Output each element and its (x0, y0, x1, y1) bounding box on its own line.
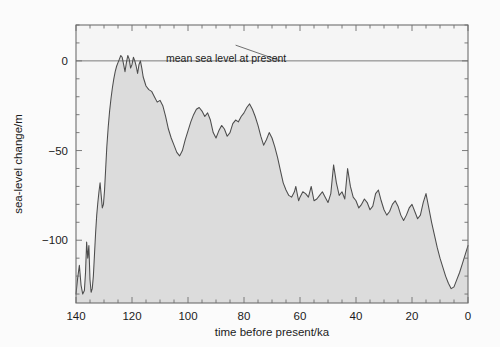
x-tick-label-80: 80 (238, 310, 251, 322)
x-tick-label-100: 100 (178, 310, 197, 322)
sea-level-chart: 140120100806040200 0−50−100 time before … (0, 0, 500, 347)
y-tick-label--50: −50 (48, 145, 68, 157)
x-tick-label-40: 40 (350, 310, 363, 322)
x-tick-label-60: 60 (294, 310, 307, 322)
x-tick-label-140: 140 (66, 310, 85, 322)
y-tick-label--100: −100 (42, 234, 68, 246)
y-tick-label-0: 0 (62, 55, 68, 67)
y-axis-title: sea-level change/m (12, 114, 24, 214)
figure-container: 140120100806040200 0−50−100 time before … (0, 0, 500, 347)
x-tick-label-0: 0 (465, 310, 471, 322)
mean-sea-level-annotation: mean sea level at present (166, 52, 286, 64)
x-tick-label-20: 20 (406, 310, 419, 322)
x-tick-label-120: 120 (122, 310, 141, 322)
x-axis-title: time before present/ka (215, 326, 330, 338)
